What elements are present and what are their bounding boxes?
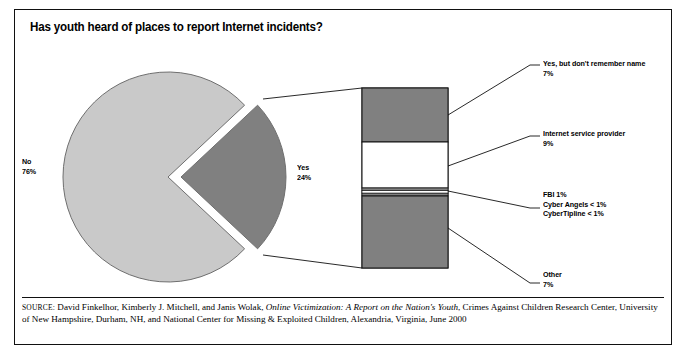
callout-label-other: Other 7% bbox=[543, 270, 562, 289]
callout-c1-name: Yes, but don't remember name bbox=[543, 59, 645, 68]
callout-label-remember-name: Yes, but don't remember name 7% bbox=[543, 59, 645, 78]
bar-segment-cyber-angels[interactable] bbox=[362, 191, 448, 194]
pie-label-no-name: No bbox=[22, 157, 31, 166]
callout-c1-value: 7% bbox=[543, 69, 553, 78]
callout-c2-value: 9% bbox=[543, 139, 553, 148]
source-prefix: SOURCE: bbox=[22, 303, 55, 312]
bar-segment-isp[interactable] bbox=[362, 142, 448, 188]
figure-panel: Has youth heard of places to report Inte… bbox=[0, 0, 685, 355]
callout-label-agencies: FBI 1% Cyber Angels < 1% CyberTipline < … bbox=[543, 190, 606, 219]
callout-c3-cyber-angels: Cyber Angels < 1% bbox=[543, 200, 606, 209]
pie-label-no-value: 76% bbox=[22, 167, 36, 176]
breakout-bar bbox=[362, 88, 448, 268]
callout-label-isp: Internet service provider 9% bbox=[543, 129, 625, 148]
callout-leader-lines bbox=[448, 65, 540, 283]
callout-c4-value: 7% bbox=[543, 280, 553, 289]
pie-label-yes: Yes 24% bbox=[297, 163, 311, 182]
bar-segment-cybertipline[interactable] bbox=[362, 193, 448, 196]
callout-c2-name: Internet service provider bbox=[543, 129, 625, 138]
callout-c3-fbi: FBI 1% bbox=[543, 190, 567, 199]
bar-segment-other[interactable] bbox=[362, 196, 448, 268]
source-text-1: David Finkelhor, Kimberly J. Mitchell, a… bbox=[55, 302, 266, 312]
source-title-italic: Online Victimization: A Report on the Na… bbox=[266, 302, 458, 312]
pie-label-yes-name: Yes bbox=[297, 163, 309, 172]
pie-label-yes-value: 24% bbox=[297, 173, 311, 182]
source-divider bbox=[22, 297, 664, 298]
callout-c3-cybertipline: CyberTipline < 1% bbox=[543, 209, 604, 218]
bar-segment-remember-name[interactable] bbox=[362, 88, 448, 142]
pie-label-no: No 76% bbox=[22, 157, 36, 176]
source-note: SOURCE: David Finkelhor, Kimberly J. Mit… bbox=[22, 302, 666, 325]
callout-c4-name: Other bbox=[543, 270, 562, 279]
bar-segment-fbi[interactable] bbox=[362, 188, 448, 191]
